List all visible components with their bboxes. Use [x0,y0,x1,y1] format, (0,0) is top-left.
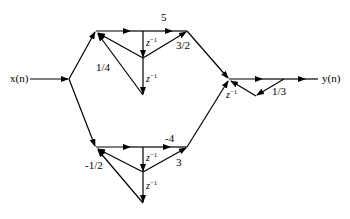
lower-delay-2: z−1 [146,180,157,191]
output-delay: z−1 [226,89,237,100]
upper-delay-1: z−1 [146,37,157,48]
lower-feedback-gain: 3 [176,157,182,168]
output-feedback-gain: 1/3 [272,86,286,97]
lower-forward-gain: -4 [165,133,174,144]
output-label: y(n) [322,73,340,84]
signal-flow-graph: x(n) y(n) 1/4 5 3/2 z−1 z−1 -1/2 -4 3 z−… [0,0,350,219]
lower-delay-1: z−1 [146,152,157,163]
lower-input-gain: -1/2 [85,160,103,171]
upper-delay-2: z−1 [146,73,157,84]
upper-input-gain: 1/4 [96,62,110,73]
upper-forward-gain: 5 [161,12,167,23]
flow-graph-edges [0,0,350,219]
upper-feedback-gain: 3/2 [176,40,190,51]
input-label: x(n) [10,73,28,84]
